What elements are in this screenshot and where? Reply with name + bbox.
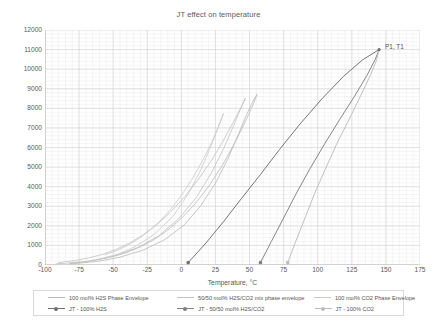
legend-label: 100 mol% H2S Phase Envelope (69, 295, 149, 301)
legend-swatch-icon (48, 294, 65, 301)
legend-item[interactable]: 50/50 mol% H2S/CO2 mix phase envelope (171, 292, 312, 303)
y-axis-tick-label: 4000 (2, 184, 42, 191)
legend-swatch-icon (48, 305, 65, 312)
y-axis-tick-label: 10000 (2, 66, 42, 73)
y-axis-tick-label: 8000 (2, 105, 42, 112)
x-axis-title: Temperature, °C (45, 279, 420, 286)
legend-item[interactable]: JT - 100% H2S (34, 303, 171, 314)
y-axis-tick-label: 3000 (2, 203, 42, 210)
y-axis-tick-label: 6000 (2, 145, 42, 152)
chart-title: JT effect on temperature (0, 10, 437, 19)
legend-item[interactable]: JT - 100% CO2 (313, 303, 403, 314)
y-axis-tick-label: 2000 (2, 223, 42, 230)
legend-label: JT - 100% H2S (69, 306, 107, 312)
legend-item[interactable]: JT - 50/50 mol% H2S/CO2 (171, 303, 312, 314)
plot-area (45, 30, 420, 265)
y-axis-tick-labels: 0100020003000400050006000700080009000100… (0, 30, 42, 265)
legend-item[interactable]: 100 mol% CO2 Phase Envelope (312, 292, 403, 303)
legend-item[interactable]: 100 mol% H2S Phase Envelope (34, 292, 171, 303)
annotation-p1-t1: P1, T1 (385, 43, 404, 50)
y-axis-tick-label: 5000 (2, 164, 42, 171)
legend-label: 100 mol% CO2 Phase Envelope (335, 295, 415, 301)
legend-label: 50/50 mol% H2S/CO2 mix phase envelope (198, 295, 304, 301)
legend-swatch-icon (177, 305, 194, 312)
annotation-marker (377, 48, 380, 51)
series-line (260, 50, 379, 263)
y-axis-tick-label: 1000 (2, 242, 42, 249)
series-paths (56, 50, 379, 264)
legend-row: JT - 100% H2SJT - 50/50 mol% H2S/CO2JT -… (34, 303, 403, 314)
x-axis-tick-labels: -100-75-50-250255075100125150175 (45, 267, 420, 279)
y-axis-tick-label: 9000 (2, 86, 42, 93)
legend-swatch-icon (315, 305, 332, 312)
y-axis-tick-label: 11000 (2, 47, 42, 54)
chart-container: JT effect on temperature 010002000300040… (0, 0, 437, 332)
y-axis-tick-label: 7000 (2, 125, 42, 132)
plot-svg (45, 30, 420, 265)
series-line (105, 113, 224, 257)
x-axis-tick-label: 175 (400, 267, 437, 274)
legend-row: 100 mol% H2S Phase Envelope50/50 mol% H2… (34, 292, 403, 303)
y-axis-tick-label: 12000 (2, 27, 42, 34)
legend-swatch-icon (177, 294, 194, 301)
legend-label: JT - 100% CO2 (336, 306, 374, 312)
chart-legend: 100 mol% H2S Phase Envelope50/50 mol% H2… (33, 290, 404, 316)
series-marker (186, 261, 190, 265)
legend-label: JT - 50/50 mol% H2S/CO2 (198, 306, 264, 312)
series-marker (259, 261, 263, 265)
series-marker (286, 261, 290, 265)
legend-swatch-icon (314, 294, 331, 301)
